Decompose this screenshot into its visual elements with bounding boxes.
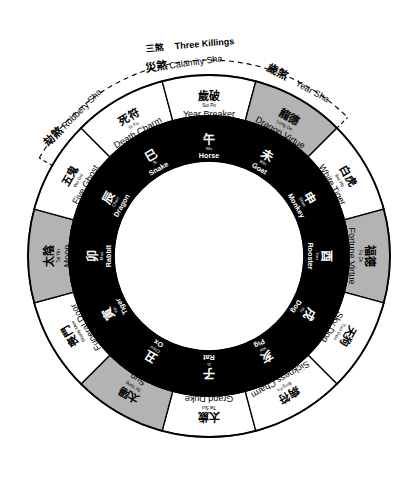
outer-label-grand-duke-cn: 太歲 [198, 411, 221, 424]
inner-label-rooster-cn: 酉 [319, 250, 333, 262]
three-killings-en: Three Killings [174, 36, 234, 51]
outer-label-grand-duke-pinyin: Tai Sui [202, 405, 216, 410]
sha-label-calamity-sha: 災煞Calamity Sha [143, 50, 223, 74]
sha-label-year-sha-cn: 歲煞 [265, 60, 291, 82]
outer-label-year-breaker-cn: 歲破 [198, 89, 220, 102]
outer-label-fortune-virtue-cn: 福德 [364, 244, 377, 267]
sha-label-calamity-sha-cn: 災煞 [143, 58, 169, 74]
inner-label-rooster-en: Rooster [306, 242, 315, 269]
inner-label-rabbit-en: Rabbit [104, 244, 113, 267]
three-killings-arc-tick-1 [336, 117, 347, 128]
outer-label-year-breaker-pinyin: Sui Po [202, 103, 216, 108]
three-killings-cn: 三煞 [145, 41, 165, 54]
outer-label-fortune-virtue-en: Fortune Virtue [347, 228, 357, 285]
three-killings-label: 三煞Three Killings [145, 35, 234, 54]
outer-label-year-breaker-en: Year Breaker [183, 109, 235, 119]
wheel-svg: 太歲Tai SuiGrand Duke太陽Tai YangSun喪門Shang … [0, 0, 418, 479]
sha-label-calamity-sha-en: Calamity Sha [169, 53, 223, 70]
three-killings-text-group: 三煞Three Killings [145, 35, 234, 54]
inner-label-rat-cn: 子 [203, 366, 215, 380]
three-killings-arc-tick-0 [39, 158, 53, 166]
outer-label-moon-cn: 太陰 [42, 244, 55, 268]
outer-label-fortune-virtue-pinyin: Fu De [358, 250, 363, 263]
inner-label-horse-en: Horse [199, 151, 219, 160]
inner-label-horse-cn: 午 [203, 132, 215, 147]
inner-label-rat-en: Rat [203, 353, 215, 362]
inner-label-rabbit-cn: 卯 [85, 250, 100, 262]
outer-label-moon-en: Moon [62, 245, 72, 268]
inner-label-rat[interactable]: 子ZiRat [203, 353, 215, 380]
ring-outline-0 [114, 161, 304, 351]
outer-label-grand-duke-en: Grand Duke [185, 394, 234, 404]
feng-shui-wheel-diagram: 太歲Tai SuiGrand Duke太陽Tai YangSun喪門Shang … [0, 0, 418, 479]
outer-label-moon-pinyin: Tai Yin [56, 249, 61, 263]
